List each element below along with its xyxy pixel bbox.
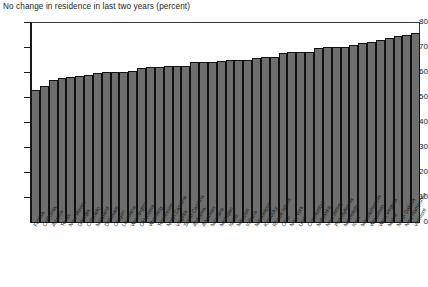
bar-chart: No change in residence in last two years… <box>0 0 428 287</box>
y-axis-tick-mark <box>24 122 30 123</box>
bar <box>234 60 243 223</box>
bar <box>270 57 279 222</box>
bar <box>226 60 235 223</box>
x-axis-label-slot: Maryland <box>93 224 102 286</box>
y-axis-tick-mark <box>24 47 30 48</box>
x-axis-label-slot: Rhode Island <box>270 224 279 286</box>
bar <box>128 71 137 222</box>
x-axis-label-slot: North Carolina <box>164 224 173 286</box>
x-axis-label-slot: Florida <box>31 224 40 286</box>
x-axis-label-slot: California <box>40 224 49 286</box>
x-axis-label-slot: Maine <box>385 224 394 286</box>
bar <box>305 52 314 222</box>
x-axis-label-slot: Michigan <box>217 224 226 286</box>
y-axis-tick-label: 60 <box>406 68 428 76</box>
x-axis-label-slot: Pennsylvania <box>332 224 341 286</box>
y-axis-tick-mark <box>24 172 30 173</box>
bar <box>385 38 394 222</box>
x-axis-label-slot: Colorado <box>84 224 93 286</box>
bar <box>102 72 111 222</box>
bar <box>243 60 252 223</box>
x-axis-label-slot: Connecticut <box>305 224 314 286</box>
x-axis-label-slot: Vermont <box>411 224 420 286</box>
x-axis-labels: FloridaCaliforniaArizonaTexasNew MexicoG… <box>31 224 420 286</box>
bar <box>66 77 75 222</box>
x-axis-label-slot: Kentucky <box>261 224 270 286</box>
x-axis-label-slot: Ohio <box>279 224 288 286</box>
x-axis-label-slot: Louisiana <box>119 224 128 286</box>
bar <box>137 68 146 222</box>
x-axis-label-slot: New Hampshire <box>402 224 411 286</box>
x-axis-label-slot: Wyoming <box>146 224 155 286</box>
x-axis-label-slot: Arizona <box>49 224 58 286</box>
y-axis-tick-label: 0 <box>406 218 428 226</box>
x-axis-label-slot: North Dakota <box>394 224 403 286</box>
bar <box>58 78 67 222</box>
bar <box>217 61 226 222</box>
bar <box>252 58 261 222</box>
x-axis-label-slot: Idaho <box>226 224 235 286</box>
y-axis-tick-mark <box>24 147 30 148</box>
x-axis-label-slot: Wisconsin <box>367 224 376 286</box>
x-axis-label-slot: Montana <box>208 224 217 286</box>
bar <box>287 52 296 222</box>
bar <box>332 47 341 222</box>
y-axis-tick-mark <box>24 22 30 23</box>
bar <box>49 80 58 223</box>
bar <box>146 67 155 222</box>
bar <box>40 86 49 222</box>
y-axis-tick-mark <box>24 197 30 198</box>
y-axis-tick-mark <box>24 97 30 98</box>
x-axis-label-slot: Virginia <box>173 224 182 286</box>
bar <box>296 52 305 222</box>
bar <box>358 43 367 222</box>
bar <box>111 72 120 222</box>
x-axis-label-slot: Washington <box>128 224 137 286</box>
bar <box>208 62 217 222</box>
x-axis-label-slot: Georgia <box>75 224 84 286</box>
x-axis-label-slot: Oregon <box>111 224 120 286</box>
bar <box>93 73 102 222</box>
bar <box>323 47 332 222</box>
x-axis-label-slot: Nebraska <box>314 224 323 286</box>
bar <box>164 66 173 222</box>
y-axis-tick-label: 50 <box>406 93 428 101</box>
y-axis-tick-label: 40 <box>406 118 428 126</box>
x-axis-label-slot: New Mexico <box>66 224 75 286</box>
x-axis-label-slot: Alabama <box>190 224 199 286</box>
x-axis-label-slot: New Jersey <box>323 224 332 286</box>
x-axis-label-slot: Tennessee <box>155 224 164 286</box>
x-axis-label-slot: Arkansas <box>199 224 208 286</box>
x-axis-label-slot: Mississippi <box>252 224 261 286</box>
x-axis-label-slot: New York <box>287 224 296 286</box>
bar <box>394 36 403 222</box>
x-axis-label-slot: Missouri <box>234 224 243 286</box>
x-axis-label-slot: Oklahoma <box>137 224 146 286</box>
bar <box>261 57 270 222</box>
x-axis-label-slot: South Carolina <box>181 224 190 286</box>
x-axis-label-slot: Texas <box>58 224 67 286</box>
y-axis-tick-label: 20 <box>406 168 428 176</box>
bar <box>314 48 323 222</box>
bar <box>119 72 128 222</box>
y-axis-tick-label: 70 <box>406 43 428 51</box>
y-axis-tick-label: 10 <box>406 193 428 201</box>
chart-title: No change in residence in last two years… <box>3 2 190 11</box>
bar <box>155 67 164 222</box>
bar <box>84 75 93 223</box>
bar <box>367 42 376 222</box>
y-axis-tick-label: 30 <box>406 143 428 151</box>
bar <box>349 45 358 223</box>
x-axis-label-slot: Delaware <box>102 224 111 286</box>
x-axis-label-slot: Indiana <box>243 224 252 286</box>
bar <box>341 47 350 222</box>
x-axis-label-slot: Minnesota <box>341 224 350 286</box>
y-axis-tick-label: 80 <box>406 18 428 26</box>
x-axis-label-slot: Iowa <box>349 224 358 286</box>
x-axis-label-slot: Utah <box>296 224 305 286</box>
y-axis-tick-mark <box>24 72 30 73</box>
bar <box>31 90 40 223</box>
bar-series <box>31 22 420 222</box>
x-axis-label-slot: West Virginia <box>376 224 385 286</box>
x-axis-label-slot: Massachusetts <box>358 224 367 286</box>
